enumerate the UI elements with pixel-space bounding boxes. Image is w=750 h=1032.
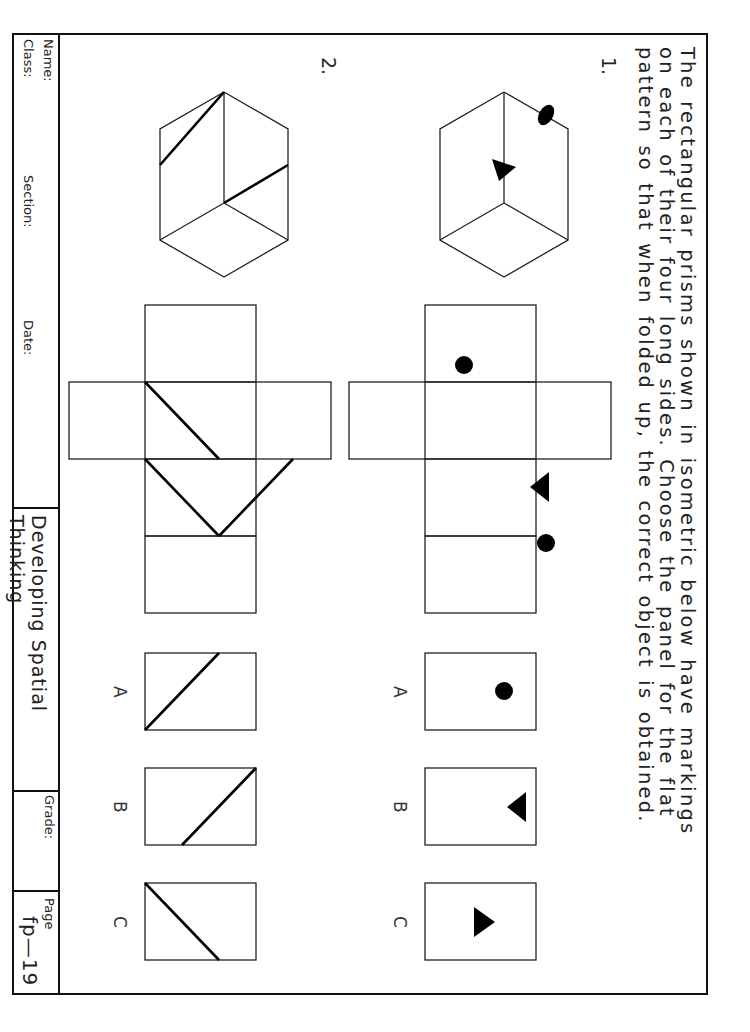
diagonal-line (145, 883, 219, 960)
worksheet-page: The rectangular prisms shown in isometri… (12, 33, 708, 995)
section-label: Section: (21, 175, 36, 228)
problem-2-isometric-prism (160, 92, 288, 277)
worksheet-title: Developing Spatial Thinking (6, 515, 50, 790)
diagonal-line (145, 382, 219, 459)
diagonal-line (224, 165, 288, 203)
triangle-icon (474, 907, 495, 937)
diagonal-line (145, 459, 219, 536)
grade-label: Grade: (42, 795, 57, 839)
name-label: Name: (41, 39, 56, 82)
problem-2-option-c-panel[interactable] (145, 883, 256, 960)
problem-2-option-c-label: C (110, 916, 130, 928)
ellipse-dot-icon (534, 102, 557, 128)
date-label: Date: (21, 320, 36, 355)
diagonal-line (145, 653, 219, 730)
problem-1-option-a-label: A (390, 686, 410, 698)
figures (10, 35, 706, 997)
problem-1-option-b-label: B (390, 801, 410, 813)
diagonal-line (182, 768, 256, 845)
problem-1-isometric-prism (440, 92, 601, 277)
problem-1-net (349, 305, 611, 613)
problem-2-option-b-panel[interactable] (145, 768, 256, 845)
dot-icon (455, 356, 473, 374)
page-label: Page (42, 898, 57, 929)
page-cell: Page fp—19 (12, 890, 58, 993)
class-label: Class: (21, 39, 36, 78)
problem-2-option-a-panel[interactable] (145, 653, 256, 730)
problem-1-option-a-panel[interactable] (425, 653, 536, 730)
triangle-icon (530, 472, 549, 502)
diagonal-line (160, 92, 224, 165)
student-info-cell: Name: Class: Section: Date: (12, 35, 58, 507)
dot-icon (495, 682, 513, 700)
problem-1-option-c-label: C (390, 916, 410, 928)
problem-2-option-b-label: B (110, 801, 130, 813)
title-cell: Developing Spatial Thinking (12, 507, 58, 790)
problem-2-option-a-label: A (110, 686, 130, 698)
triangle-icon (507, 792, 526, 822)
dot-icon (537, 534, 555, 552)
page-number: fp—19 (18, 916, 42, 986)
grade-cell: Grade: (12, 790, 58, 890)
title-block: Name: Class: Section: Date: Developing S… (12, 35, 60, 993)
